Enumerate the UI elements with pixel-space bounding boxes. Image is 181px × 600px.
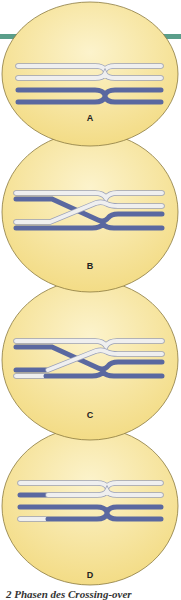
panel-a	[2, 2, 178, 146]
figure-caption: 2 Phasen des Crossing-over	[6, 588, 132, 600]
panel-label-a: A	[87, 113, 94, 123]
panel-label-d: D	[87, 570, 94, 580]
panel-label-b: B	[87, 261, 94, 271]
panel-label-c: C	[87, 410, 94, 420]
